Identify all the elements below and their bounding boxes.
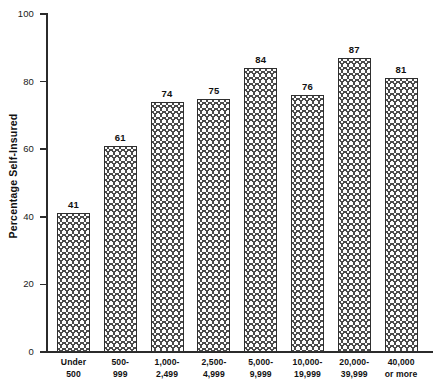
x-axis-category-line: 999: [97, 369, 144, 381]
bar: [197, 99, 230, 353]
y-tick-label: 80: [8, 77, 34, 87]
x-axis-category-label: 40,000or more: [378, 357, 425, 380]
bars-layer: 4161747584768781: [47, 14, 433, 352]
x-axis-category-line: 2,500-: [190, 357, 237, 369]
x-axis-category-line: 2,499: [144, 369, 191, 381]
x-axis-category-label: 1,000-2,499: [144, 357, 191, 380]
x-axis-category-label: 20,000-39,999: [331, 357, 378, 380]
x-axis-category-line: 500-: [97, 357, 144, 369]
x-axis-category-line: 19,999: [284, 369, 331, 381]
x-axis-category-line: 1,000-: [144, 357, 191, 369]
bar-value-label: 81: [385, 65, 418, 75]
x-axis-category-label: Under500: [50, 357, 97, 380]
y-tick-label: 100: [8, 9, 34, 19]
x-axis-category-line: 40,000: [378, 357, 425, 369]
bar: [291, 95, 324, 352]
bar-value-label: 41: [57, 200, 90, 210]
bar-value-label: 74: [151, 89, 184, 99]
x-axis-category-line: or more: [378, 369, 425, 381]
x-axis-category-line: 4,999: [190, 369, 237, 381]
bar: [244, 68, 277, 352]
x-axis-category-label: 5,000-9,999: [237, 357, 284, 380]
x-axis-category-line: Under: [50, 357, 97, 369]
bar-chart: Percentage Self-Insured 020406080100 416…: [0, 0, 443, 391]
y-tick-label: 60: [8, 144, 34, 154]
x-axis-category-line: 10,000-: [284, 357, 331, 369]
x-axis-category-label: 2,500-4,999: [190, 357, 237, 380]
x-axis-category-line: 39,999: [331, 369, 378, 381]
bar-value-label: 75: [197, 86, 230, 96]
bar-value-label: 61: [104, 133, 137, 143]
bar-value-label: 84: [244, 55, 277, 65]
bar-value-label: 76: [291, 82, 324, 92]
y-tick-label: 40: [8, 212, 34, 222]
x-axis-category-line: 20,000-: [331, 357, 378, 369]
bar: [151, 102, 184, 352]
bar: [338, 58, 371, 352]
bar: [104, 146, 137, 352]
bar: [385, 78, 418, 352]
x-axis-category-label: 500-999: [97, 357, 144, 380]
x-axis-labels: Under500500-9991,000-2,4992,500-4,9995,0…: [47, 357, 433, 391]
bar: [57, 213, 90, 352]
x-axis-category-line: 9,999: [237, 369, 284, 381]
x-axis-category-line: 500: [50, 369, 97, 381]
bar-value-label: 87: [338, 45, 371, 55]
y-tick-label: 20: [8, 279, 34, 289]
x-axis-category-label: 10,000-19,999: [284, 357, 331, 380]
x-axis-category-line: 5,000-: [237, 357, 284, 369]
y-tick-label: 0: [8, 347, 34, 357]
